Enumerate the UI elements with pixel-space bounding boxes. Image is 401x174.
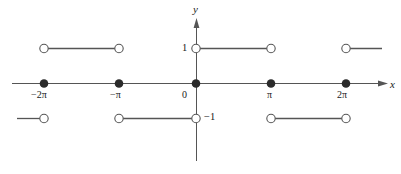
- y-tick-label-one: 1: [182, 43, 187, 54]
- filled-point-2pi: [342, 79, 351, 88]
- open-point-lower-2pi: [342, 114, 350, 122]
- x-axis-arrowhead: [378, 81, 388, 87]
- y-axis-arrowhead: [194, 18, 200, 28]
- filled-point-neg2pi: [40, 79, 49, 88]
- x-tick-label-2pi: 2π: [337, 90, 347, 100]
- x-axis-label: x: [390, 79, 395, 90]
- filled-point-zero: [192, 79, 201, 88]
- filled-point-negpi: [115, 79, 124, 88]
- open-point-lower-neg2pi: [40, 114, 48, 122]
- open-point-lower-negpi: [115, 114, 123, 122]
- y-tick-label-neg-one: −1: [204, 112, 215, 123]
- open-point-upper-pi: [267, 44, 275, 52]
- open-point-upper-2pi: [342, 44, 350, 52]
- open-point-upper-negpi: [115, 44, 123, 52]
- open-point-lower-pi: [267, 114, 275, 122]
- open-point-upper-zero: [192, 44, 200, 52]
- open-point-lower-zero: [192, 114, 200, 122]
- axis-group: [12, 18, 388, 161]
- plot-canvas: [0, 0, 401, 174]
- filled-point-pi: [267, 79, 276, 88]
- x-tick-label-neg-2pi: −2π: [31, 90, 47, 100]
- step-function-graph-figure: y x −2π −π 0 π 2π 1 −1: [0, 0, 401, 174]
- x-tick-label-pi: π: [267, 90, 272, 100]
- y-axis-label: y: [193, 4, 198, 15]
- x-tick-label-neg-pi: −π: [110, 90, 121, 100]
- origin-label: 0: [182, 90, 187, 100]
- open-point-upper-neg2pi: [40, 44, 48, 52]
